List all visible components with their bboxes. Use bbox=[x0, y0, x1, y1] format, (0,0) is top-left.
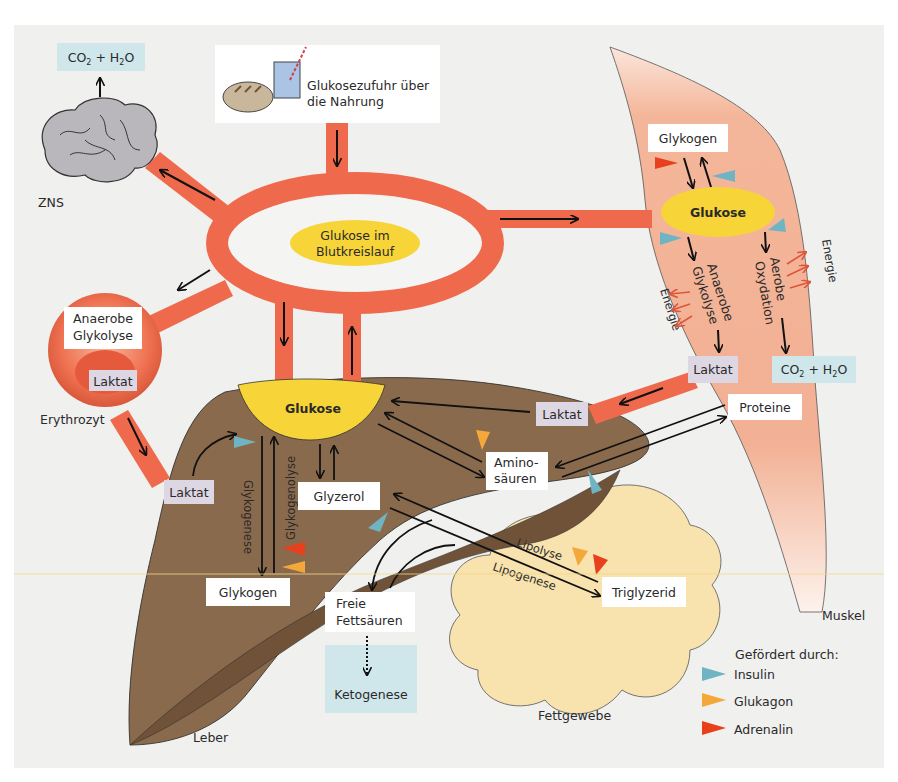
free-fa-line1: Freie bbox=[336, 596, 366, 611]
brain-label: ZNS bbox=[38, 195, 64, 210]
proteins-label: Proteine bbox=[739, 400, 791, 415]
liver-glycogenesis: Glykogenese bbox=[241, 480, 255, 554]
legend-glukagon: Glukagon bbox=[734, 694, 793, 709]
blood-glucose-ellipse bbox=[290, 220, 420, 266]
triglyceride-label: Triglyzerid bbox=[611, 585, 676, 600]
glucose-metabolism-diagram: Anaerobe Glykolyse Laktat Erythrozyt ZNS… bbox=[0, 0, 898, 782]
glass-icon bbox=[274, 62, 300, 98]
liver-glycogenolysis: Glykogenolyse bbox=[284, 456, 298, 540]
food-line2: die Nahrung bbox=[307, 94, 384, 109]
food-line1: Glukosezufuhr über bbox=[307, 78, 430, 93]
erythrocyte-process-line2: Glykolyse bbox=[73, 328, 133, 343]
muscle-lactate: Laktat bbox=[693, 362, 732, 377]
blood-line1: Glukose im bbox=[320, 228, 389, 243]
legend-adrenalin: Adrenalin bbox=[734, 722, 793, 737]
muscle-glycogen: Glykogen bbox=[659, 131, 718, 146]
free-fa-line2: Fettsäuren bbox=[336, 613, 403, 628]
liver-label: Leber bbox=[193, 730, 229, 745]
muscle-glucose: Glukose bbox=[690, 205, 746, 220]
erythrocyte-cell: Anaerobe Glykolyse Laktat bbox=[48, 293, 162, 407]
liver-glucose: Glukose bbox=[285, 401, 341, 416]
liver-glycerol: Glyzerol bbox=[314, 489, 365, 504]
ketogenesis-label: Ketogenese bbox=[334, 687, 408, 702]
liver-lactate: Laktat bbox=[169, 485, 208, 500]
erythrocyte-label: Erythrozyt bbox=[40, 412, 105, 427]
muscle-co2-text: CO2 + H2O bbox=[781, 362, 848, 379]
legend-insulin: Insulin bbox=[734, 667, 775, 682]
brain-co2-text: CO2 + H2O bbox=[68, 50, 135, 67]
liver-glycogen: Glykogen bbox=[219, 585, 278, 600]
muscle-label: Muskel bbox=[822, 608, 865, 623]
legend-title: Gefördert durch: bbox=[735, 647, 839, 662]
erythrocyte-lactate: Laktat bbox=[93, 374, 132, 389]
erythrocyte-process-line1: Anaerobe bbox=[73, 311, 133, 326]
amino-line1: Amino- bbox=[494, 455, 539, 470]
liver-muscle-lactate: Laktat bbox=[542, 407, 581, 422]
food-box: Glukosezufuhr über die Nahrung bbox=[215, 45, 440, 123]
fat-tissue-label: Fettgewebe bbox=[538, 708, 611, 723]
amino-line2: säuren bbox=[494, 471, 537, 486]
ketogenesis-box bbox=[325, 645, 417, 713]
blood-line2: Blutkreislauf bbox=[316, 244, 395, 259]
